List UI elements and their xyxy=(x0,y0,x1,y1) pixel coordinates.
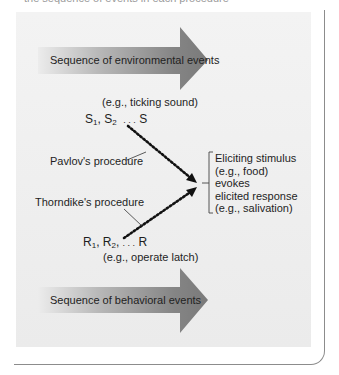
r2-subscript: 2 xyxy=(111,241,115,250)
r1-subscript: 1 xyxy=(92,241,96,250)
outcome-line-salivation-example: (e.g., salivation) xyxy=(215,202,298,215)
s2-symbol: S xyxy=(104,112,112,126)
stimulus-example: (e.g., ticking sound) xyxy=(102,96,198,109)
outcome-bracket xyxy=(202,152,213,213)
thorndike-leader-line xyxy=(124,209,142,226)
outcome-line-elicited-response: elicited response xyxy=(215,190,298,203)
outcome-line-evokes: evokes xyxy=(215,177,298,190)
bottom-arrow-label: Sequence of behavioral events xyxy=(50,294,201,307)
outcome-block: Eliciting stimulus (e.g., food) evokes e… xyxy=(215,152,298,215)
outcome-line-food-example: (e.g., food) xyxy=(215,165,298,178)
outcome-line-eliciting-stimulus: Eliciting stimulus xyxy=(215,152,298,165)
pavlov-label: Pavlov's procedure xyxy=(50,155,143,168)
s1-subscript: 1 xyxy=(93,118,97,127)
s1-symbol: S xyxy=(85,112,93,126)
thorndike-dotted-path xyxy=(124,187,197,238)
s-ellipsis: . . . xyxy=(123,115,136,125)
response-sequence: R1, R2, . . . R xyxy=(83,236,147,252)
s-last-symbol: S xyxy=(139,112,147,126)
r1-symbol: R xyxy=(83,235,92,249)
thorndike-label: Thorndike's procedure xyxy=(35,196,144,209)
stimulus-sequence: S1, S2 . . . S xyxy=(85,113,147,129)
r-last-symbol: R xyxy=(138,235,147,249)
response-example: (e.g., operate latch) xyxy=(103,251,198,264)
top-arrow-label: Sequence of environmental events xyxy=(50,54,219,67)
s2-subscript: 2 xyxy=(112,118,116,127)
r-ellipsis: . . . xyxy=(123,238,136,248)
